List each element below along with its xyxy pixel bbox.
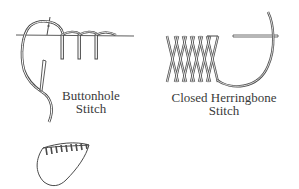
buttonhole-label-line2: Stitch bbox=[58, 102, 124, 115]
stitch-diagram: Buttonhole Stitch Closed Herringbone Sti… bbox=[0, 0, 299, 189]
closed-herringbone-stitch-label: Closed Herringbone Stitch bbox=[161, 91, 287, 117]
buttonhole-stitch-label: Buttonhole Stitch bbox=[58, 89, 124, 115]
scalloped-edge-illustration bbox=[37, 143, 89, 186]
closed-herringbone-stitch-illustration bbox=[167, 12, 278, 86]
herringbone-label-line2: Stitch bbox=[161, 104, 287, 117]
